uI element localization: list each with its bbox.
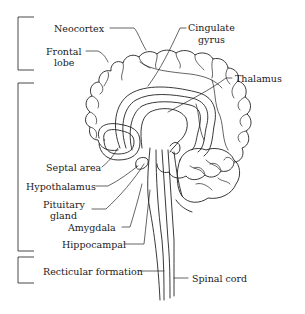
bracket-limbic	[18, 83, 34, 251]
label-frontal-lobe-line1: Frontal	[46, 46, 82, 57]
septal-area-shape	[98, 124, 140, 160]
cingulate-gyrus	[115, 87, 215, 156]
label-hypothalamus: Hypothalamus	[26, 181, 96, 192]
label-thalamus: Thalamus	[235, 73, 282, 84]
label-neocortex: Neocortex	[54, 23, 104, 34]
bracket-brainstem	[18, 257, 34, 283]
label-recticular-formation: Recticular formation	[43, 266, 143, 277]
thalamus	[141, 109, 187, 154]
label-amygdala: Amygdala	[68, 222, 116, 233]
bracket-neocortex	[18, 17, 34, 70]
label-frontal-lobe-line2: lobe	[54, 57, 74, 68]
label-spinal-cord: Spinal cord	[192, 273, 247, 284]
label-pituitary-line1: Pituitary	[43, 199, 85, 210]
brainstem	[148, 148, 182, 300]
label-hippocampal: Hippocampal	[62, 239, 126, 250]
label-pituitary-line2: gland	[50, 210, 77, 221]
label-cingulate-line1: Cingulate	[188, 22, 235, 33]
label-cingulate-line2: gyrus	[198, 34, 225, 45]
label-septal-area: Septal area	[46, 162, 101, 173]
brain-diagram: Neocortex Frontal lobe Cingulate gyrus T…	[0, 0, 305, 314]
